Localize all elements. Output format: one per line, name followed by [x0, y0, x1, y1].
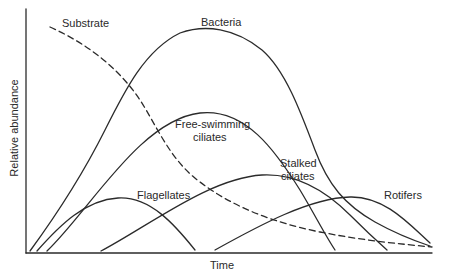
- label-free-swimming-ciliates-line1: Free-swimming: [175, 118, 250, 130]
- x-axis-label: Time: [210, 259, 234, 271]
- label-substrate: Substrate: [62, 17, 109, 29]
- rotifers-curve: [215, 197, 430, 250]
- bacteria-curve: [30, 29, 430, 251]
- y-axis-label: Relative abundance: [8, 78, 20, 178]
- stalked-ciliates-curve: [101, 175, 387, 251]
- label-rotifers: Rotifers: [384, 189, 422, 201]
- substrate-curve: [50, 27, 432, 247]
- label-flagellates: Flagellates: [137, 189, 190, 201]
- label-bacteria: Bacteria: [201, 16, 241, 28]
- label-stalked-ciliates-line1: Stalked: [280, 157, 317, 169]
- label-free-swimming-ciliates-line2: ciliates: [193, 131, 227, 143]
- label-stalked-ciliates-line2: ciliates: [281, 170, 315, 182]
